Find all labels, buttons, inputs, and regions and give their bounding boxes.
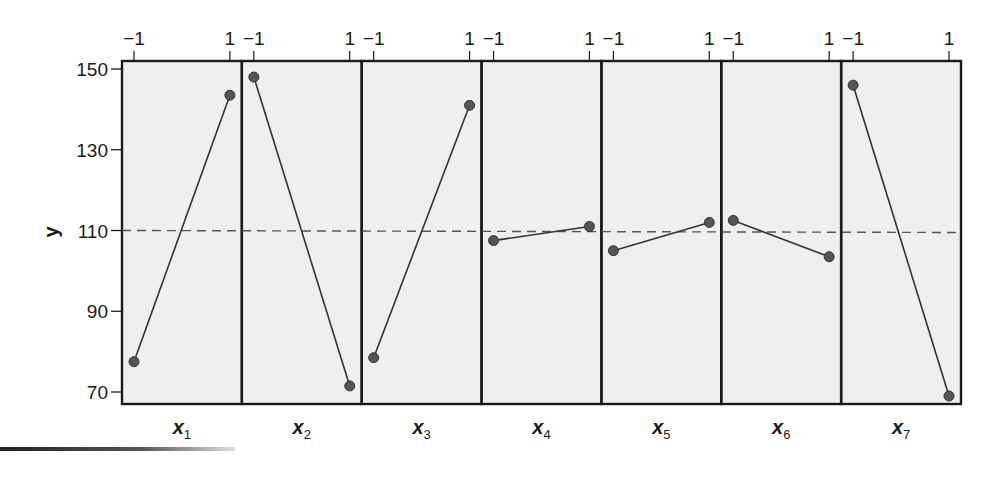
data-point-high	[345, 381, 355, 391]
level-ticks-top: −11−11−11−11−11−11−11	[123, 28, 954, 61]
level-tick-label: −1	[842, 28, 864, 49]
data-point-low	[848, 80, 858, 90]
data-point-high	[584, 221, 594, 231]
y-tick-label: 130	[76, 140, 108, 161]
level-tick-label: 1	[584, 28, 595, 49]
factor-labels: x1x2x3x4x5x6x7	[172, 416, 911, 442]
y-tick-label: 90	[87, 301, 108, 322]
main-effects-chart: 7090110130150 y −11−11−11−11−11−11−11 x1…	[0, 0, 1007, 477]
factor-label-x4: x4	[531, 416, 550, 442]
data-point-high	[824, 252, 834, 262]
level-tick-label: −1	[483, 28, 505, 49]
data-point-low	[489, 236, 499, 246]
data-point-high	[704, 217, 714, 227]
data-point-low	[728, 215, 738, 225]
page-rule-divider	[0, 447, 235, 451]
level-tick-label: 1	[344, 28, 355, 49]
factor-label-x3: x3	[411, 416, 430, 442]
level-tick-label: 1	[944, 28, 955, 49]
y-axis-title: y	[40, 226, 62, 238]
level-tick-label: −1	[123, 28, 145, 49]
level-tick-label: 1	[704, 28, 715, 49]
level-tick-label: −1	[722, 28, 744, 49]
data-point-high	[225, 90, 235, 100]
factor-label-x1: x1	[172, 416, 191, 442]
level-tick-label: −1	[603, 28, 625, 49]
level-tick-label: −1	[243, 28, 265, 49]
data-point-high	[465, 100, 475, 110]
level-tick-label: 1	[824, 28, 835, 49]
data-point-low	[608, 246, 618, 256]
factor-label-x5: x5	[651, 416, 670, 442]
level-tick-label: −1	[363, 28, 385, 49]
data-point-high	[944, 391, 954, 401]
data-point-low	[369, 353, 379, 363]
y-axis: 7090110130150	[76, 59, 122, 403]
y-tick-label: 150	[76, 59, 108, 80]
data-point-low	[129, 357, 139, 367]
y-tick-label: 70	[87, 382, 108, 403]
y-tick-label: 110	[78, 221, 108, 242]
factor-label-x7: x7	[891, 416, 910, 442]
factor-label-x6: x6	[771, 416, 790, 442]
data-point-low	[249, 72, 259, 82]
level-tick-label: 1	[464, 28, 475, 49]
factor-label-x2: x2	[292, 416, 311, 442]
level-tick-label: 1	[225, 28, 236, 49]
